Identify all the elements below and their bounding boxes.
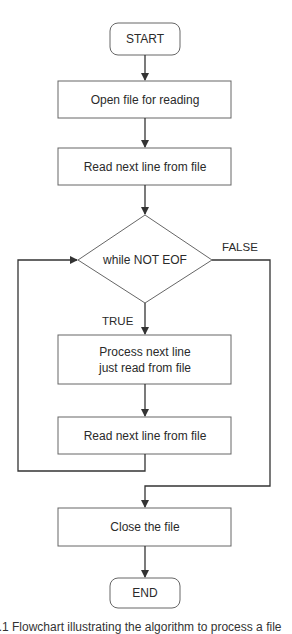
open-file-step: Open file for reading (58, 81, 231, 118)
close-file-label: Close the file (110, 520, 180, 534)
process-label-line1: Process next line (99, 345, 191, 359)
decision-label: while NOT EOF (102, 253, 187, 267)
true-label: TRUE (102, 315, 134, 327)
process-line-step: Process next line just read from file (58, 335, 231, 384)
end-terminal: END (110, 578, 180, 608)
open-file-label: Open file for reading (91, 93, 200, 107)
figure-caption: 1.1 Flowchart illustrating the algorithm… (0, 620, 292, 634)
read-next-label: Read next line from file (84, 429, 207, 443)
start-label: START (126, 32, 165, 46)
process-label-line2: just read from file (98, 361, 191, 375)
close-file-step: Close the file (58, 508, 231, 546)
eof-decision: while NOT EOF (78, 215, 212, 303)
read-first-line-step: Read next line from file (58, 148, 231, 185)
start-terminal: START (110, 23, 180, 55)
read-first-label: Read next line from file (84, 160, 207, 174)
read-next-line-step: Read next line from file (58, 417, 231, 454)
false-label: FALSE (222, 241, 258, 253)
end-label: END (132, 586, 158, 600)
